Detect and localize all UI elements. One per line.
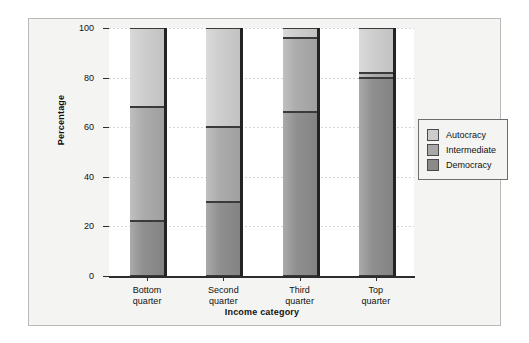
legend-label: Autocracy bbox=[446, 130, 486, 140]
y-axis-tick: 40 bbox=[103, 177, 109, 178]
x-axis-label-line: Top bbox=[336, 285, 416, 296]
x-axis-line bbox=[109, 276, 415, 278]
x-axis-label: Secondquarter bbox=[183, 285, 263, 307]
bar-segment-autocracy bbox=[283, 28, 317, 38]
y-axis-tick: 100 bbox=[103, 28, 109, 29]
legend-swatch bbox=[427, 144, 439, 156]
x-axis-tick bbox=[376, 276, 377, 281]
y-axis-tick: 20 bbox=[103, 226, 109, 227]
bar-stack bbox=[206, 28, 240, 276]
bar-segment-gloss bbox=[359, 74, 393, 77]
bar-segment-democracy bbox=[206, 202, 240, 276]
bar-segment-democracy bbox=[359, 78, 393, 276]
y-axis-tick: 80 bbox=[103, 78, 109, 79]
x-axis-label-line: Third bbox=[260, 285, 340, 296]
y-axis-tick-label: 100 bbox=[79, 23, 94, 33]
x-axis-label-line: Bottom bbox=[107, 285, 187, 296]
bar-segment-gloss bbox=[359, 29, 393, 72]
x-axis-tick bbox=[223, 276, 224, 281]
plot-area: 020406080100 bbox=[109, 28, 414, 276]
x-axis-label-line: quarter bbox=[260, 296, 340, 307]
y-axis-tick-label: 40 bbox=[84, 172, 94, 182]
legend-item[interactable]: Democracy bbox=[427, 157, 496, 172]
bar-segment-gloss bbox=[130, 29, 164, 106]
y-axis-tick-label: 20 bbox=[84, 221, 94, 231]
legend-item[interactable]: Autocracy bbox=[427, 127, 496, 142]
bar-stack bbox=[283, 28, 317, 276]
x-axis-label-line: quarter bbox=[107, 296, 187, 307]
x-axis-label-line: quarter bbox=[183, 296, 263, 307]
bar-segment-gloss bbox=[359, 79, 393, 275]
bar-segment-gloss bbox=[283, 29, 317, 37]
x-axis-tick bbox=[147, 276, 148, 281]
bar-segment-intermediate bbox=[283, 38, 317, 112]
chart-legend: AutocracyIntermediateDemocracy bbox=[418, 119, 508, 180]
bar-segment-gloss bbox=[130, 222, 164, 275]
bar-stack bbox=[130, 28, 164, 276]
bar-segment-gloss bbox=[206, 203, 240, 275]
y-axis-tick: 0 bbox=[103, 276, 109, 277]
legend-label: Intermediate bbox=[446, 145, 496, 155]
legend-label: Democracy bbox=[446, 160, 492, 170]
bar-segment-intermediate bbox=[359, 73, 393, 78]
bar-stack bbox=[359, 28, 393, 276]
legend-item[interactable]: Intermediate bbox=[427, 142, 496, 157]
y-axis-tick-label: 80 bbox=[84, 73, 94, 83]
bar-segment-intermediate bbox=[130, 107, 164, 221]
bar-segment-autocracy bbox=[359, 28, 393, 73]
bar-segment-gloss bbox=[130, 108, 164, 220]
x-axis-label: Thirdquarter bbox=[260, 285, 340, 307]
bar-segment-democracy bbox=[283, 112, 317, 276]
bar-segment-democracy bbox=[130, 221, 164, 276]
bar-segment-autocracy bbox=[206, 28, 240, 127]
x-axis-title: Income category bbox=[109, 307, 415, 317]
x-axis-tick bbox=[300, 276, 301, 281]
x-axis-label-line: Second bbox=[183, 285, 263, 296]
x-axis-label-line: quarter bbox=[336, 296, 416, 307]
bar-segment-intermediate bbox=[206, 127, 240, 201]
x-axis-label: Topquarter bbox=[336, 285, 416, 307]
x-axis-label: Bottomquarter bbox=[107, 285, 187, 307]
bar-segment-gloss bbox=[206, 128, 240, 200]
y-axis-title: Percentage bbox=[56, 60, 66, 180]
bar-segment-gloss bbox=[206, 29, 240, 126]
legend-swatch bbox=[427, 129, 439, 141]
chart-figure: Percentage 020406080100 Income category … bbox=[28, 18, 501, 326]
bar-segment-gloss bbox=[283, 113, 317, 275]
y-axis-tick: 60 bbox=[103, 127, 109, 128]
y-axis-tick-label: 0 bbox=[89, 271, 94, 281]
legend-swatch bbox=[427, 159, 439, 171]
bar-segment-gloss bbox=[283, 39, 317, 111]
y-axis-tick-label: 60 bbox=[84, 122, 94, 132]
bar-segment-autocracy bbox=[130, 28, 164, 107]
